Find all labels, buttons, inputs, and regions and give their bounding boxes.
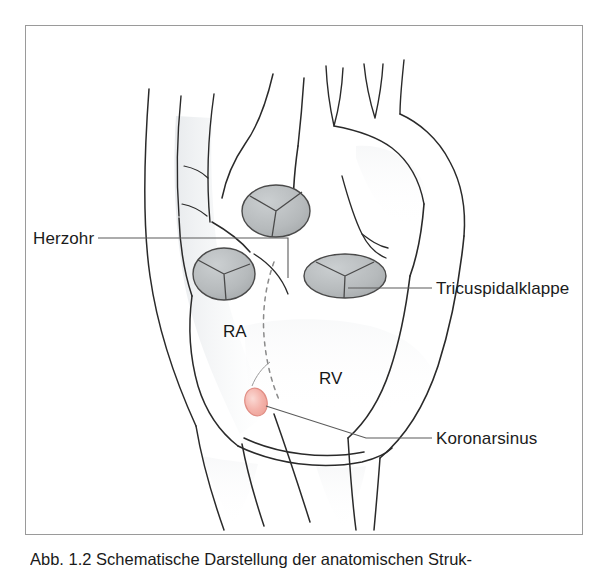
label-tricuspidalklappe: Tricuspidalklappe bbox=[436, 279, 569, 299]
label-koronarsinus: Koronarsinus bbox=[436, 429, 537, 449]
descending-far-right bbox=[374, 458, 380, 530]
chamber-label-ra: RA bbox=[223, 322, 247, 342]
ascending-aorta-left bbox=[222, 74, 273, 198]
ascending-aorta-right bbox=[298, 78, 304, 146]
descending-left bbox=[274, 414, 310, 522]
label-herzohr: Herzohr bbox=[33, 229, 94, 249]
left-carotid-branch bbox=[364, 64, 383, 118]
valve-aortic bbox=[242, 185, 310, 237]
left-subclavian-branch bbox=[400, 60, 404, 114]
shading-layer bbox=[174, 116, 438, 530]
chamber-label-rv: RV bbox=[319, 369, 342, 389]
brachiocephalic-branch bbox=[326, 66, 343, 126]
valve-pulmonary bbox=[304, 254, 386, 298]
ra-roof bbox=[212, 222, 250, 252]
appendage-crest bbox=[254, 254, 288, 294]
rv-inferior-border bbox=[244, 438, 364, 456]
figure-caption: Abb. 1.2 Schematische Darstellung der an… bbox=[30, 548, 590, 568]
figure-root: RA RV Herzohr Tricuspidalklappe Koronars… bbox=[0, 0, 605, 568]
valve-tricuspid-oval bbox=[193, 248, 255, 300]
